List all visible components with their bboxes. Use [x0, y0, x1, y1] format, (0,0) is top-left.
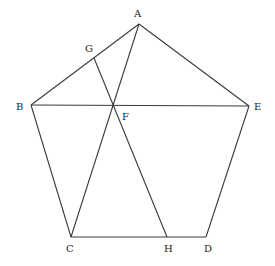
segment-AC [71, 24, 139, 237]
pentagon-diagram: A B C D E F G H [0, 0, 275, 266]
segment-GH [94, 58, 167, 237]
label-G: G [85, 43, 93, 54]
label-H: H [164, 243, 173, 254]
point-labels: A B C D E F G H [16, 8, 261, 254]
label-D: D [204, 243, 212, 254]
segment-BC [31, 105, 71, 237]
segment-DE [206, 106, 249, 237]
label-B: B [16, 101, 23, 112]
segment-BE [31, 105, 249, 106]
label-C: C [66, 243, 74, 254]
label-E: E [254, 101, 261, 112]
label-F: F [122, 111, 129, 122]
segments [31, 24, 249, 237]
segment-AE [139, 24, 249, 106]
label-A: A [133, 8, 142, 19]
segment-AB [31, 24, 139, 105]
